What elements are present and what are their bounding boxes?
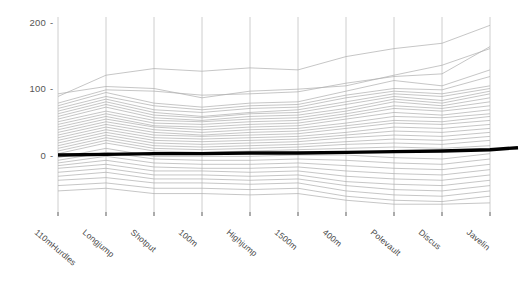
ytick-label-100: 100 <box>6 83 46 94</box>
highlight-line-group <box>58 148 518 155</box>
series-line <box>58 168 490 185</box>
ytick-dash-100: - <box>50 83 53 94</box>
ytick-label-0: 0 <box>6 150 46 161</box>
series-lines-group <box>58 25 490 204</box>
plot-canvas <box>0 0 530 284</box>
series-line <box>58 25 490 96</box>
ytick-label-200: 200 <box>6 17 46 28</box>
series-line <box>58 148 518 155</box>
axis-tick-marks-group <box>58 212 490 216</box>
parallel-coordinates-figure: 200 - 100 - 0 - 110mHurdlesLongjumpShotp… <box>0 0 530 284</box>
series-line <box>58 178 490 197</box>
series-line <box>58 160 490 175</box>
ytick-dash-0: - <box>50 150 53 161</box>
series-line <box>58 164 490 180</box>
series-line <box>58 172 490 191</box>
series-line <box>58 47 490 104</box>
ytick-dash-200: - <box>50 17 53 28</box>
series-line <box>58 183 490 202</box>
